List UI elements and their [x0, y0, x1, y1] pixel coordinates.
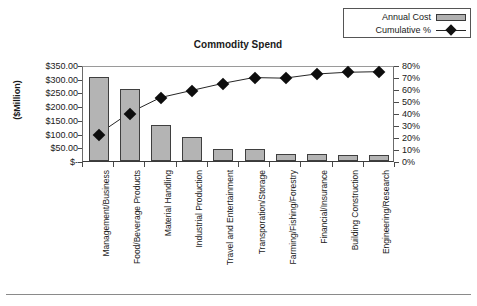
y-tick-right-5	[394, 102, 399, 103]
line-diamond-swatch-icon	[436, 26, 466, 35]
y-tick-label-left-2: $100.00	[0, 131, 78, 140]
x-axis	[82, 162, 394, 168]
x-tick-3	[176, 162, 177, 167]
y-tick-label-right-8: 80%	[402, 62, 452, 71]
y-tick-label-left-6: $300.00	[0, 76, 78, 85]
plot-area	[82, 66, 394, 162]
x-category-label-1: Food/Beverage Products	[133, 170, 142, 264]
pareto-chart-figure: Annual Cost Cumulative % Commodity Spend…	[0, 0, 477, 306]
bar-8	[338, 155, 358, 161]
y-tick-right-3	[394, 126, 399, 127]
x-tick-7	[300, 162, 301, 167]
bar-4	[213, 149, 233, 161]
y-tick-label-left-7: $350.00	[0, 62, 78, 71]
y-tick-label-right-7: 70%	[402, 74, 452, 83]
y-tick-label-left-3: $150.00	[0, 117, 78, 126]
x-tick-4	[207, 162, 208, 167]
y-tick-label-right-3: 30%	[402, 122, 452, 131]
y-tick-label-left-4: $200.00	[0, 103, 78, 112]
bar-3	[182, 137, 202, 161]
y-tick-label-left-0: $-	[0, 158, 78, 167]
y-tick-label-right-2: 20%	[402, 134, 452, 143]
x-category-label-6: Farming/Fishing/Forestry	[289, 170, 298, 264]
x-tick-9	[363, 162, 364, 167]
chart-title: Commodity Spend	[82, 39, 394, 51]
x-category-label-8: Building Construction	[351, 170, 360, 250]
y-tick-right-7	[394, 78, 399, 79]
y-tick-label-right-6: 60%	[402, 86, 452, 95]
legend-item-cumulative-pct: Cumulative %	[348, 24, 466, 37]
legend-label-cumulative-pct: Cumulative %	[375, 26, 431, 35]
y-tick-right-8	[394, 66, 399, 67]
footer-divider	[6, 294, 471, 295]
x-axis-labels: Management/BusinessFood/Beverage Product…	[82, 170, 394, 280]
plot-inner	[83, 67, 393, 161]
x-category-label-0: Management/Business	[102, 170, 111, 256]
x-tick-10	[394, 162, 395, 167]
bar-0	[89, 77, 109, 161]
x-category-label-3: Industrial Production	[195, 170, 204, 248]
x-tick-6	[269, 162, 270, 167]
y-tick-right-6	[394, 90, 399, 91]
x-tick-0	[82, 162, 83, 167]
chart-legend: Annual Cost Cumulative %	[343, 8, 471, 38]
y-tick-right-1	[394, 150, 399, 151]
y-tick-label-right-0: 0%	[402, 158, 452, 167]
y-tick-label-right-1: 10%	[402, 146, 452, 155]
y-tick-label-left-1: $50.00	[0, 144, 78, 153]
bar-5	[245, 149, 265, 161]
bar-7	[307, 154, 327, 161]
legend-label-annual-cost: Annual Cost	[382, 13, 431, 22]
x-tick-8	[332, 162, 333, 167]
y-tick-label-left-5: $250.00	[0, 89, 78, 98]
bar-6	[276, 154, 296, 161]
y-tick-label-right-4: 40%	[402, 110, 452, 119]
y-tick-right-2	[394, 138, 399, 139]
x-category-label-2: Material Handling	[164, 170, 173, 236]
legend-item-annual-cost: Annual Cost	[348, 11, 466, 24]
x-category-label-5: Transporation/Storage	[258, 170, 267, 254]
y-axis-left: $-$50.00$100.00$150.00$200.00$250.00$300…	[0, 66, 78, 162]
y-axis-right: 0%10%20%30%40%50%60%70%80%	[394, 66, 454, 162]
bar-swatch-icon	[436, 14, 466, 21]
y-tick-label-right-5: 50%	[402, 98, 452, 107]
y-tick-right-4	[394, 114, 399, 115]
x-tick-1	[113, 162, 114, 167]
x-tick-5	[238, 162, 239, 167]
bar-2	[151, 125, 171, 161]
bar-9	[369, 155, 389, 161]
bar-1	[120, 89, 140, 161]
x-category-label-7: Financial/Insurance	[320, 170, 329, 244]
x-tick-2	[144, 162, 145, 167]
x-category-label-4: Travel and Entertainment	[226, 170, 235, 265]
x-category-label-9: Engineering/Research	[382, 170, 391, 254]
